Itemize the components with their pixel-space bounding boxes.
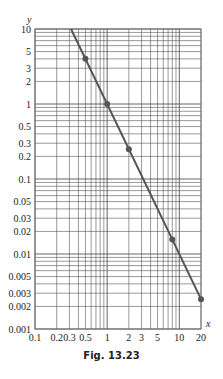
- x-tick-label: 10: [174, 332, 184, 343]
- y-tick-label: 1: [26, 99, 31, 110]
- y-tick-label: 0.002: [9, 301, 32, 312]
- x-axis-title: x: [205, 318, 211, 329]
- figure-caption: Fig. 13.23: [0, 350, 223, 361]
- grid-lines: [35, 29, 201, 329]
- y-axis-title: y: [26, 14, 32, 25]
- data-point-marker: [198, 296, 204, 302]
- x-tick-label: 0.2: [50, 332, 63, 343]
- y-tick-label: 0.2: [19, 151, 32, 162]
- y-tick-label: 0.005: [9, 271, 32, 282]
- x-tick-labels: 0.10.20.30.512351020: [29, 332, 206, 343]
- y-tick-label: 0.3: [19, 138, 32, 149]
- x-tick-label: 3: [139, 332, 144, 343]
- x-tick-label: 20: [196, 332, 206, 343]
- x-tick-label: 2: [126, 332, 131, 343]
- y-tick-label: 0.5: [19, 121, 32, 132]
- y-tick-label: 0.003: [9, 288, 32, 299]
- y-tick-label: 5: [26, 46, 31, 57]
- x-tick-label: 0.3: [63, 332, 76, 343]
- y-tick-label: 0.1: [19, 174, 32, 185]
- series-line: [71, 29, 201, 299]
- y-tick-label: 0.05: [14, 196, 32, 207]
- x-tick-label: 1: [105, 332, 110, 343]
- y-tick-label: 2: [26, 76, 31, 87]
- x-tick-label: 0.5: [79, 332, 92, 343]
- log-log-chart: 0.10.20.30.512351020 1053210.50.30.20.10…: [0, 0, 223, 379]
- data-point-marker: [126, 146, 132, 152]
- x-tick-label: 5: [155, 332, 160, 343]
- y-tick-label: 0.03: [14, 213, 32, 224]
- y-tick-labels: 1053210.50.30.20.10.050.030.020.010.0050…: [9, 24, 32, 335]
- y-tick-label: 0.001: [9, 324, 32, 335]
- data-point-marker: [104, 101, 110, 107]
- y-tick-label: 3: [26, 63, 31, 74]
- y-tick-label: 0.01: [14, 249, 32, 260]
- data-point-marker: [82, 56, 88, 62]
- data-point-marker: [169, 236, 175, 242]
- y-tick-label: 0.02: [14, 226, 32, 237]
- y-tick-label: 10: [21, 24, 31, 35]
